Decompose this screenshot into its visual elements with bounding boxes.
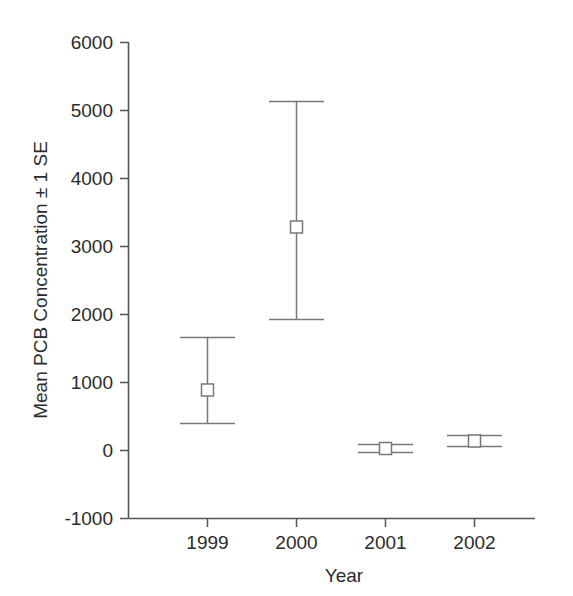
x-axis-title: Year [325, 565, 364, 586]
y-tick-label-0: 0 [102, 440, 113, 461]
y-tick-labels: 6000 5000 4000 3000 2000 1000 0 -1000 [64, 32, 113, 529]
x-tick-label-2002: 2002 [453, 532, 495, 553]
marker-2002 [469, 435, 481, 447]
chart-figure: 6000 5000 4000 3000 2000 1000 0 -1000 19… [0, 0, 573, 596]
y-tick-marks [120, 43, 129, 519]
errorbar-chart: 6000 5000 4000 3000 2000 1000 0 -1000 19… [0, 0, 573, 596]
x-tick-label-1999: 1999 [186, 532, 228, 553]
marker-2001 [380, 443, 392, 455]
x-tick-labels: 1999 2000 2001 2002 [186, 532, 495, 553]
x-tick-label-2000: 2000 [275, 532, 317, 553]
y-tick-label-5000: 5000 [71, 100, 113, 121]
data-point-2000 [269, 102, 324, 320]
y-tick-label-1000: 1000 [71, 372, 113, 393]
y-tick-label-neg1000: -1000 [64, 508, 113, 529]
y-tick-label-3000: 3000 [71, 236, 113, 257]
y-tick-label-4000: 4000 [71, 168, 113, 189]
x-tick-label-2001: 2001 [364, 532, 406, 553]
data-point-2002 [447, 435, 502, 447]
data-point-2001 [358, 443, 413, 455]
y-axis-title: Mean PCB Concentration ± 1 SE [30, 141, 51, 419]
marker-1999 [202, 384, 214, 396]
x-tick-marks [208, 519, 475, 528]
y-tick-label-6000: 6000 [71, 32, 113, 53]
y-tick-label-2000: 2000 [71, 304, 113, 325]
marker-2000 [291, 221, 303, 233]
data-point-1999 [180, 338, 235, 424]
